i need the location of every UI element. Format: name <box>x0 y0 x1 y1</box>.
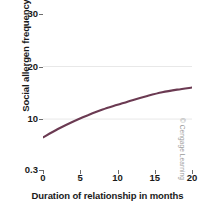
x-tick-mark <box>118 170 119 174</box>
x-tick-mark <box>155 170 156 174</box>
y-tick-mark <box>39 14 43 15</box>
data-curves <box>43 88 192 138</box>
x-tick-mark <box>43 170 44 174</box>
plot-canvas <box>43 14 192 170</box>
chart-figure: Social allergen frequency Duration of re… <box>0 0 221 210</box>
gridlines <box>43 67 192 120</box>
y-tick-label: 20 <box>2 61 38 72</box>
y-tick-mark <box>39 67 43 68</box>
x-tick-mark <box>192 170 193 174</box>
data-line-0 <box>43 88 192 138</box>
y-tick-mark <box>39 119 43 120</box>
x-axis-title: Duration of relationship in months <box>20 190 195 201</box>
x-tick-mark <box>80 170 81 174</box>
attribution-credit: © Cengage Learning <box>179 118 186 188</box>
y-tick-label: 30 <box>2 8 38 19</box>
y-tick-label: 10 <box>2 113 38 124</box>
